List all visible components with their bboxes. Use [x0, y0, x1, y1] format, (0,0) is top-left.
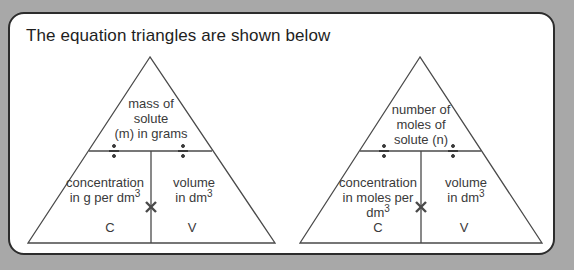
triangle-1-left-label: concentration in g per dm3 [62, 175, 148, 205]
triangle-diagrams [0, 0, 574, 270]
triangle-2-right-label: volume in dm3 [436, 175, 496, 205]
triangle-1-c-symbol: C [104, 220, 116, 235]
triangle-2-c-symbol: C [372, 220, 384, 235]
triangle-2-v-symbol: V [458, 220, 470, 235]
triangle-2-top-label: number of moles of solute (n) [380, 102, 462, 147]
triangle-1-right-label: volume in dm3 [164, 175, 224, 205]
triangle-2-left-label: concentration in moles per dm3 [335, 175, 421, 220]
triangle-1-top-label: mass of solute (m) in grams [110, 96, 192, 141]
triangle-1-v-symbol: V [186, 220, 198, 235]
